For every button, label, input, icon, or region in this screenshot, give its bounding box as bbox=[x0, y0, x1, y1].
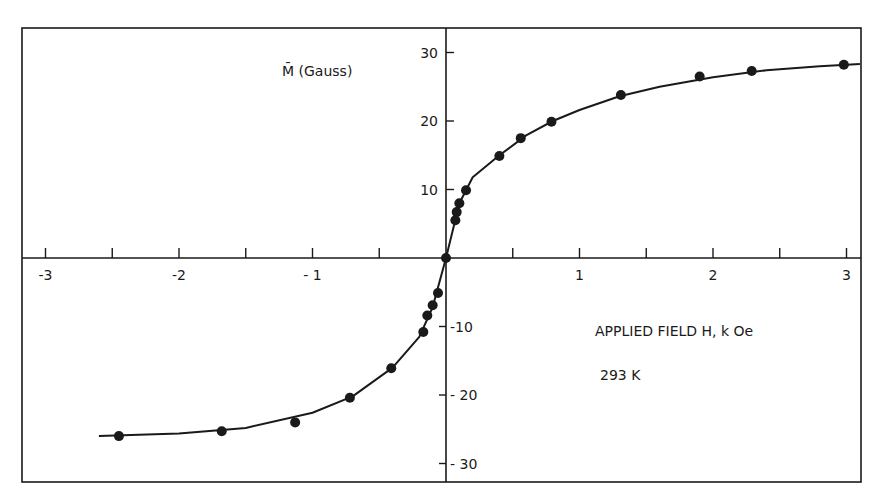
data-point bbox=[345, 393, 355, 403]
x-tick-label: 3 bbox=[842, 267, 851, 283]
y-tick-label: 30 bbox=[420, 45, 438, 61]
magnetization-chart: -3-2- 1123302010-10- 20- 30 M̄ (Gauss) A… bbox=[0, 0, 880, 497]
data-point bbox=[386, 363, 396, 373]
data-point bbox=[461, 185, 471, 195]
x-tick-label: 2 bbox=[709, 267, 718, 283]
y-tick-label: 10 bbox=[420, 182, 438, 198]
fit-curve bbox=[99, 64, 860, 436]
data-point bbox=[433, 288, 443, 298]
data-point bbox=[454, 198, 464, 208]
fit-curve-path bbox=[99, 64, 860, 436]
y-tick-label: - 30 bbox=[450, 456, 477, 472]
data-point bbox=[114, 431, 124, 441]
x-tick-label: -2 bbox=[172, 267, 186, 283]
data-point bbox=[747, 66, 757, 76]
data-point bbox=[616, 90, 626, 100]
y-axis-title: M̄ (Gauss) bbox=[282, 62, 352, 79]
data-point bbox=[441, 253, 451, 263]
plot-frame bbox=[22, 28, 861, 482]
data-point bbox=[695, 71, 705, 81]
data-point bbox=[422, 311, 432, 321]
data-point bbox=[290, 417, 300, 427]
data-point bbox=[516, 133, 526, 143]
x-tick-label: -3 bbox=[39, 267, 53, 283]
data-point bbox=[428, 300, 438, 310]
y-tick-label: 20 bbox=[420, 113, 438, 129]
axes bbox=[22, 28, 861, 482]
data-points bbox=[114, 60, 849, 441]
data-point bbox=[418, 327, 428, 337]
data-point bbox=[494, 151, 504, 161]
data-point bbox=[839, 60, 849, 70]
temperature-annotation: 293 K bbox=[600, 367, 641, 383]
y-tick-label: -10 bbox=[450, 319, 473, 335]
x-tick-label: 1 bbox=[575, 267, 584, 283]
x-axis-title: APPLIED FIELD H, k Oe bbox=[595, 323, 753, 339]
data-point bbox=[546, 117, 556, 127]
y-tick-label: - 20 bbox=[450, 387, 477, 403]
data-point bbox=[452, 207, 462, 217]
chart-canvas: -3-2- 1123302010-10- 20- 30 M̄ (Gauss) A… bbox=[0, 0, 880, 497]
x-tick-label: - 1 bbox=[303, 267, 321, 283]
data-point bbox=[217, 426, 227, 436]
